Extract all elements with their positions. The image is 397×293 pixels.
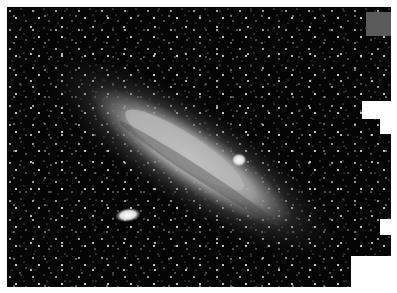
- white-notch: [362, 101, 391, 119]
- white-notch: [380, 219, 391, 235]
- galaxy-illustration: [7, 7, 391, 287]
- satellite-galaxy-upper: [231, 153, 247, 167]
- white-notch: [380, 119, 391, 134]
- gray-patch: [366, 12, 391, 36]
- galaxy-photo: [7, 7, 391, 287]
- white-notch: [351, 256, 391, 287]
